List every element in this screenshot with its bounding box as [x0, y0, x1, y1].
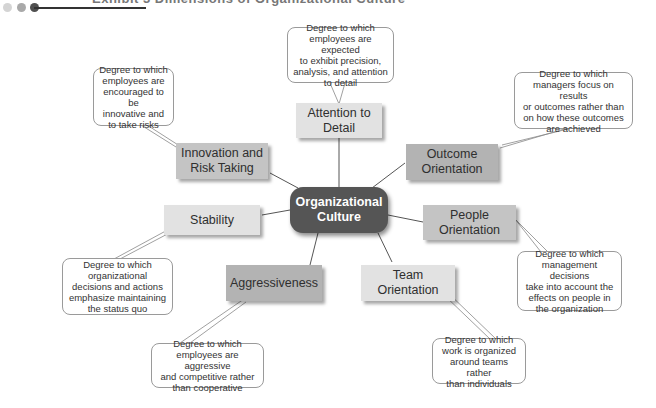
- text-line: Attention to: [307, 106, 370, 120]
- text-line: Stability: [190, 213, 234, 227]
- text-line: on how these outcomes: [523, 112, 623, 123]
- stability-node: Stability: [164, 205, 260, 235]
- outcome-description-bubble: Degree to whichmanagers focus on results…: [514, 72, 633, 129]
- innovation-risk-taking-node: Innovation andRisk Taking: [176, 143, 268, 179]
- text-line: Innovation and: [181, 146, 263, 160]
- text-line: the organization: [536, 303, 604, 314]
- text-line: Orientation: [439, 223, 500, 237]
- attention-description-bubble: Degree to whichemployees are expectedto …: [287, 27, 394, 83]
- text-line: Aggressiveness: [230, 276, 318, 290]
- people-description-bubble: Degree to whichmanagement decisionstake …: [517, 251, 622, 311]
- aggressiveness-node: Aggressiveness: [226, 265, 322, 301]
- text-line: Detail: [323, 121, 355, 135]
- aggressiveness-description-bubble: Degree to whichemployees are aggressivea…: [151, 343, 264, 388]
- team-description-bubble: Degree to whichwork is organizedaround t…: [432, 338, 526, 384]
- text-line: People: [450, 208, 489, 222]
- text-line: to take risks: [108, 119, 159, 130]
- text-line: encouraged to be: [103, 86, 164, 108]
- text-line: Risk Taking: [190, 161, 254, 175]
- organizational-culture-node: OrganizationalCulture: [290, 187, 388, 233]
- text-line: emphasize maintaining: [69, 292, 166, 303]
- text-line: management decisions: [542, 259, 597, 281]
- text-line: to exhibit precision,: [300, 55, 381, 66]
- text-line: Outcome: [427, 147, 478, 161]
- text-line: managers focus on results: [533, 79, 614, 101]
- text-line: employees are: [102, 75, 164, 86]
- text-line: Orientation: [421, 162, 482, 176]
- stability-description-bubble: Degree to whichorganizationaldecisions a…: [62, 258, 173, 315]
- text-line: Degree to which: [99, 64, 168, 75]
- text-line: Degree to which: [173, 338, 242, 349]
- text-line: Orientation: [377, 283, 438, 297]
- text-line: employees are expected: [309, 33, 371, 55]
- text-line: Degree to which: [445, 334, 514, 345]
- attention-to-detail-node: Attention toDetail: [296, 103, 382, 138]
- text-line: employees are aggressive: [176, 349, 238, 371]
- text-line: Degree to which: [539, 68, 608, 79]
- center-label-line1: Organizational: [296, 195, 383, 209]
- text-line: or outcomes rather than: [523, 101, 624, 112]
- text-line: than individuals: [446, 378, 512, 389]
- people-orientation-node: PeopleOrientation: [423, 205, 516, 240]
- text-line: around teams rather: [450, 356, 508, 378]
- text-line: decisions and actions: [72, 281, 163, 292]
- text-line: innovative and: [103, 108, 164, 119]
- innovation-description-bubble: Degree to whichemployees areencouraged t…: [93, 68, 174, 126]
- text-line: analysis, and attention: [293, 66, 388, 77]
- text-line: Degree to which: [83, 259, 152, 270]
- text-line: to detail: [324, 77, 357, 88]
- center-label-line2: Culture: [317, 210, 361, 224]
- text-line: and competitive rather: [161, 371, 255, 382]
- text-line: take into account the: [526, 281, 614, 292]
- text-line: are achieved: [546, 123, 600, 134]
- team-orientation-node: TeamOrientation: [361, 265, 455, 301]
- outcome-orientation-node: OutcomeOrientation: [406, 144, 498, 180]
- text-line: work is organized: [442, 345, 516, 356]
- text-line: than cooperative: [172, 382, 242, 393]
- text-line: organizational: [88, 270, 147, 281]
- text-line: Degree to which: [306, 22, 375, 33]
- text-line: Degree to which: [535, 248, 604, 259]
- text-line: the status quo: [88, 303, 148, 314]
- text-line: effects on people in: [528, 292, 610, 303]
- text-line: Team: [393, 268, 424, 282]
